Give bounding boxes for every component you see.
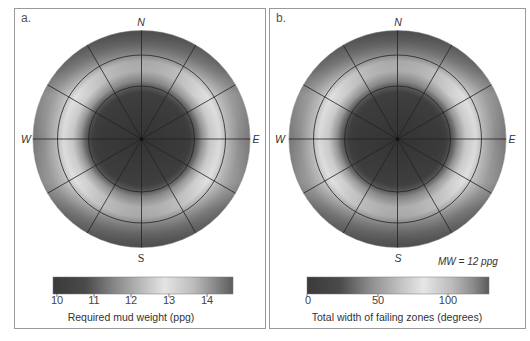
colorbar-tick-label: 13 [163,294,175,306]
colorbar-title: Required mud weight (ppg) [68,311,195,323]
colorbar-tick-label: 50 [372,294,384,306]
compass-south-label: S [394,252,401,264]
colorbar-tick-label: 100 [439,294,457,306]
stereonet-plots [0,0,530,341]
stereonet-a [33,31,250,248]
colorbar-tick-label: 0 [305,294,311,306]
compass-west-label: W [275,133,285,145]
stereonet-b [289,31,506,248]
compass-north-label: N [137,16,145,28]
colorbar-tick-label: 10 [51,294,63,306]
compass-south-label: S [138,251,145,266]
mud-weight-annotation: MW = 12 ppg [438,256,498,267]
colorbar-tick-label: 14 [201,294,213,306]
compass-east-label: E [252,133,259,145]
compass-west-label: W [21,133,31,145]
compass-east-label: E [508,133,515,145]
colorbar-title: Total width of failing zones (degrees) [312,311,482,323]
colorbar-b [307,277,489,297]
colorbar-tick-label: 12 [125,294,137,306]
colorbar-tick-label: 11 [88,294,99,306]
compass-north-label: N [394,16,402,28]
